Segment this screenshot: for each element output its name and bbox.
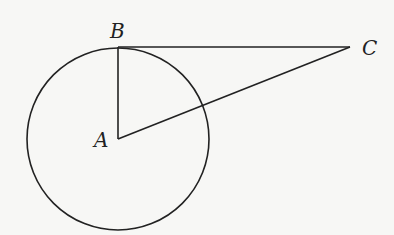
geometry-diagram: B A C: [0, 0, 394, 235]
label-b: B: [109, 19, 125, 43]
segment-ac: [118, 47, 350, 139]
label-c: C: [362, 36, 377, 60]
label-a: A: [92, 128, 108, 152]
